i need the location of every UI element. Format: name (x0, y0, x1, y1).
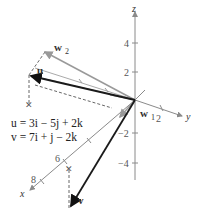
w2-label: w 2 (54, 41, 69, 56)
svg-text:2: 2 (65, 47, 69, 56)
svg-text:w: w (140, 107, 148, 119)
svg-text:1: 1 (151, 113, 155, 122)
v-vector (71, 100, 135, 206)
u-projection-marker: ✕ (25, 100, 33, 110)
x-tick-6: 6 (55, 153, 60, 164)
u-equation: u = 3i − 5j + 2k (11, 117, 83, 129)
z-tick-neg4: −4 (118, 158, 129, 169)
y-axis-label: y (185, 111, 191, 122)
u-label: u (37, 64, 43, 76)
z-tick-neg2: −2 (118, 128, 129, 139)
vector-projection-diagram: z 4 2 −2 −4 y 2 x 6 8 ✕ ✕ u v w (0, 0, 205, 220)
diagram-canvas: z 4 2 −2 −4 y 2 x 6 8 ✕ ✕ u v w (0, 0, 205, 220)
x-axis-label: x (19, 188, 25, 199)
w1-label: w 1 (140, 107, 155, 122)
x-tick-8: 8 (31, 174, 36, 185)
z-tick-2: 2 (124, 67, 129, 78)
v-equation: v = 7i + j − 2k (11, 131, 77, 143)
svg-text:w: w (54, 41, 62, 53)
y-tick-2: 2 (156, 113, 161, 124)
v-label: v (78, 194, 84, 206)
z-axis (132, 12, 138, 180)
z-axis-label: z (131, 3, 136, 14)
z-tick-4: 4 (124, 38, 129, 49)
v-projection-marker: ✕ (65, 164, 73, 174)
